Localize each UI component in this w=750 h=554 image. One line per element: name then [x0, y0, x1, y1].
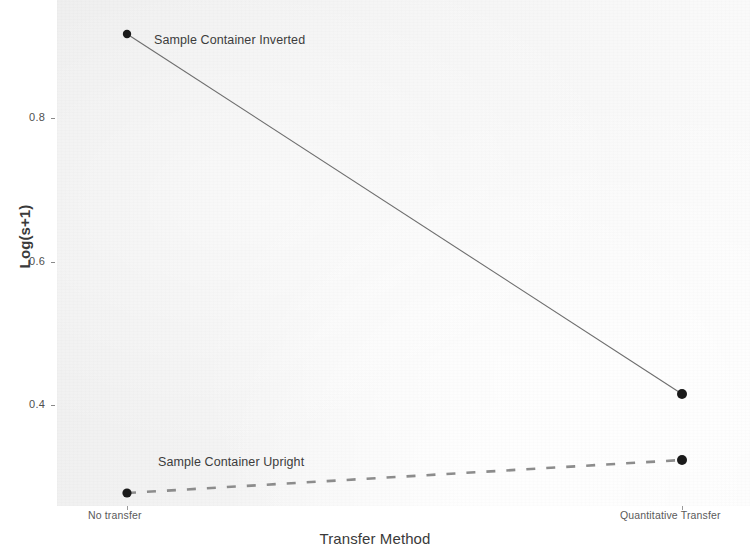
plot-svg	[57, 0, 750, 506]
y-tick-mark-0-6	[51, 262, 55, 263]
data-point-upright-no-transfer	[122, 488, 131, 497]
plot-panel: Sample Container Inverted Sample Contain…	[57, 0, 750, 506]
y-axis-title: Log(s+1)	[16, 177, 33, 297]
data-point-inverted-no-transfer	[123, 30, 131, 38]
series-annotation-upright: Sample Container Upright	[158, 455, 304, 469]
chart-figure: 0.8 0.6 0.4 Log(s+1) Sample Containe	[0, 0, 750, 554]
data-point-upright-quantitative-transfer	[677, 455, 687, 465]
x-tick-label-quantitative-transfer: Quantitative Transfer	[620, 509, 721, 521]
series-line-inverted	[127, 34, 682, 394]
y-tick-label-0-8: 0.8	[29, 111, 45, 123]
data-point-inverted-quantitative-transfer	[677, 389, 687, 399]
y-tick-mark-0-8	[51, 118, 55, 119]
x-axis-title: Transfer Method	[0, 530, 750, 547]
y-tick-label-0-4: 0.4	[29, 398, 45, 410]
series-sample-container-inverted	[123, 30, 687, 399]
x-tick-label-no-transfer: No transfer	[88, 509, 142, 521]
series-annotation-inverted: Sample Container Inverted	[154, 33, 305, 47]
y-tick-mark-0-4	[51, 405, 55, 406]
